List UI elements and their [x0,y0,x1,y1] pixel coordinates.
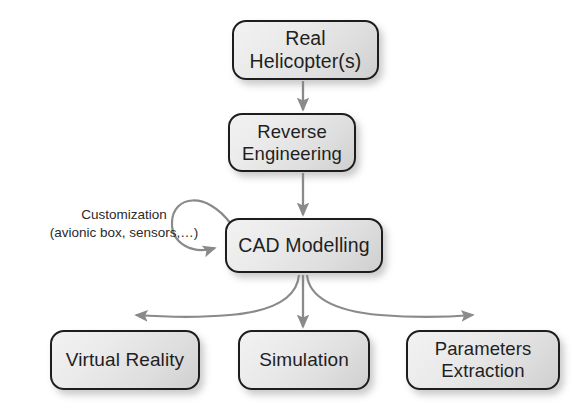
node-real-helicopters[interactable]: Real Helicopter(s) [232,20,379,80]
node-simulation-label: Simulation [253,349,355,371]
node-virtual-reality[interactable]: Virtual Reality [50,330,200,390]
node-simulation[interactable]: Simulation [238,330,370,390]
node-virtual-reality-label: Virtual Reality [60,349,190,371]
node-parameters-extraction[interactable]: Parameters Extraction [406,330,560,390]
edge-cad-to-parameters-extraction [307,275,473,317]
edge-cad-to-virtual-reality [136,275,299,317]
customization-annotation-line-2: (avionic box, sensors,…) [44,224,204,242]
node-real-helicopters-label: Real Helicopter(s) [234,27,377,73]
workflow-diagram: Real Helicopter(s) Reverse Engineering C… [0,0,588,416]
node-reverse-engineering-label: Reverse Engineering [236,121,348,165]
node-parameters-extraction-label: Parameters Extraction [429,338,538,382]
customization-annotation-line-1: Customization [44,206,204,224]
node-reverse-engineering[interactable]: Reverse Engineering [228,113,356,172]
node-cad-modelling[interactable]: CAD Modelling [225,218,383,273]
customization-annotation: Customization (avionic box, sensors,…) [44,206,204,242]
node-cad-modelling-label: CAD Modelling [232,234,375,257]
